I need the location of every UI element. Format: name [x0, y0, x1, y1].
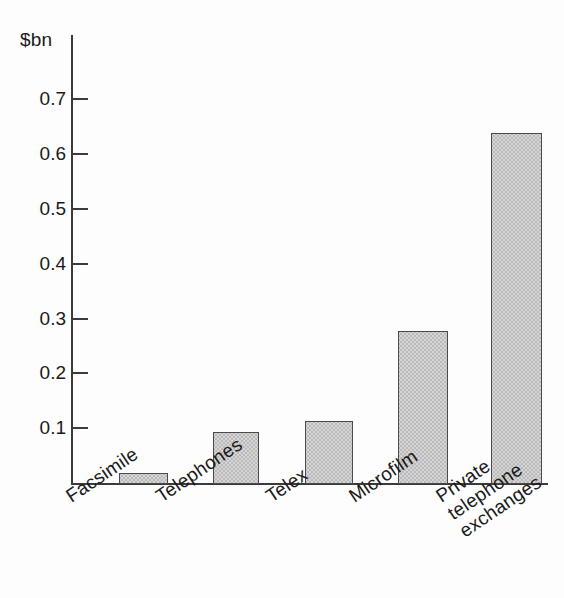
y-axis-tick-label: 0.7 — [14, 89, 66, 108]
bar — [305, 421, 353, 484]
y-axis-tick-label: 0.1 — [14, 418, 66, 437]
y-axis-tick-label-text: 0.2 — [18, 363, 66, 382]
y-axis-tick-label-text: 0.4 — [18, 254, 66, 273]
y-axis-tick-label-text: 0.1 — [18, 418, 66, 437]
bar — [491, 133, 542, 484]
y-axis-tick-label: 0.3 — [14, 309, 66, 328]
y-axis-tick-label: 0.6 — [14, 144, 66, 163]
bar-chart-figure: $bn 0.70.60.50.40.30.20.1 FacsimileTelep… — [0, 0, 564, 598]
y-axis-tick-label-text: 0.6 — [18, 144, 66, 163]
y-axis-unit-label: $bn — [20, 29, 52, 51]
y-axis-tick-label: 0.4 — [14, 254, 66, 273]
y-axis-tick-label-text: 0.5 — [18, 199, 66, 218]
y-axis-tick-label: 0.2 — [14, 363, 66, 382]
y-axis-tick-label-text: 0.7 — [18, 89, 66, 108]
plot-area — [71, 35, 548, 484]
y-axis-tick-label-text: 0.3 — [18, 309, 66, 328]
y-axis-tick-label: 0.5 — [14, 199, 66, 218]
